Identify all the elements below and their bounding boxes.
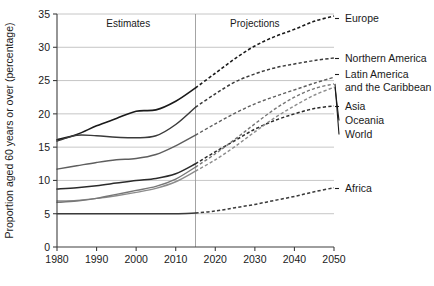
- series-label-northern-america: Northern America: [345, 52, 427, 64]
- y-axis-title-text: Proportion aged 60 years or over (percen…: [3, 23, 15, 239]
- x-tick-label-2000: 2000: [124, 253, 148, 265]
- y-tick-label-20: 20: [38, 108, 50, 120]
- y-tick-label-10: 10: [38, 174, 50, 186]
- series-label-oceania: Oceania: [345, 114, 384, 126]
- x-tick-label-2020: 2020: [204, 253, 228, 265]
- series-label-world: World: [345, 128, 372, 140]
- y-tick-label-5: 5: [44, 208, 50, 220]
- series-label-latin-america: Latin America: [345, 68, 409, 80]
- x-tick-label-1980: 1980: [45, 253, 69, 265]
- y-tick-label-0: 0: [44, 241, 50, 253]
- annotation-projections: Projections: [230, 18, 279, 29]
- series-line-estimates-africa: [57, 213, 196, 214]
- chart-background: [0, 0, 434, 286]
- x-tick-label-2030: 2030: [243, 253, 267, 265]
- y-axis-title: Proportion aged 60 years or over (percen…: [3, 23, 15, 239]
- x-tick-label-2050: 2050: [322, 253, 346, 265]
- annotation-estimates: Estimates: [106, 18, 150, 29]
- series-label-asia: Asia: [345, 100, 366, 112]
- y-tick-label-35: 35: [38, 8, 50, 20]
- y-tick-label-30: 30: [38, 41, 50, 53]
- x-tick-label-2010: 2010: [164, 253, 188, 265]
- series-label-europe: Europe: [345, 12, 379, 24]
- x-tick-label-2040: 2040: [283, 253, 307, 265]
- chart-container: 0510152025303519801990200020102020203020…: [0, 0, 434, 286]
- series-label-africa: Africa: [345, 182, 372, 194]
- y-tick-label-15: 15: [38, 141, 50, 153]
- series-label-and-the-caribbean: and the Caribbean: [345, 81, 432, 93]
- y-tick-label-25: 25: [38, 74, 50, 86]
- line-chart: 0510152025303519801990200020102020203020…: [0, 0, 434, 286]
- x-tick-label-1990: 1990: [85, 253, 109, 265]
